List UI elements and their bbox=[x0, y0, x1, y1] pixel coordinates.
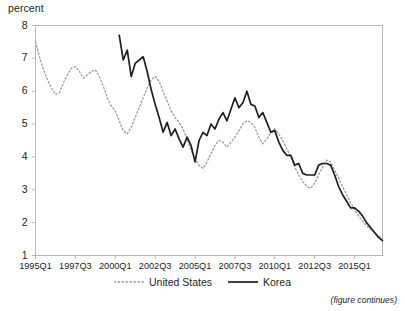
x-axis-tick-marks bbox=[36, 256, 355, 260]
series-line-korea bbox=[119, 35, 382, 240]
chart-legend: United States Korea bbox=[0, 276, 405, 288]
y-axis-tick-label: 4 bbox=[10, 150, 28, 162]
legend-entry-united-states: United States bbox=[114, 276, 212, 288]
dotted-line-swatch-icon bbox=[114, 277, 144, 287]
figure-container: percent 12345678 1995Q11997Q32000Q12002Q… bbox=[0, 0, 405, 311]
legend-entry-korea: Korea bbox=[228, 276, 291, 288]
plot-border bbox=[36, 26, 383, 256]
y-axis-tick-label: 6 bbox=[10, 84, 28, 96]
y-axis-tick-label: 7 bbox=[10, 51, 28, 63]
y-axis-tick-label: 5 bbox=[10, 117, 28, 129]
legend-label-korea: Korea bbox=[263, 276, 291, 288]
y-axis-tick-label: 8 bbox=[10, 19, 28, 31]
solid-line-swatch-icon bbox=[228, 277, 258, 287]
plot-frame bbox=[36, 26, 383, 256]
figure-continues-note: (figure continues) bbox=[331, 295, 397, 305]
legend-label-united-states: United States bbox=[149, 276, 212, 288]
y-axis-tick-label: 2 bbox=[10, 216, 28, 228]
y-axis-tick-label: 3 bbox=[10, 183, 28, 195]
y-axis-tick-label: 1 bbox=[10, 249, 28, 261]
y-axis-tick-marks bbox=[32, 26, 36, 256]
series-line-united-states bbox=[36, 42, 383, 239]
data-series-group bbox=[36, 35, 383, 240]
x-axis-tick-label: 2015Q1 bbox=[331, 261, 379, 271]
